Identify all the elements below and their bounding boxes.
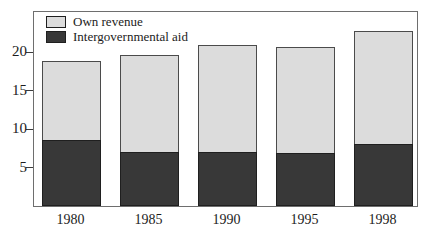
bar-segment-own-revenue	[42, 61, 101, 141]
y-tick-mark	[26, 90, 33, 91]
y-tick-label: 20	[0, 42, 27, 60]
x-axis-label: 1980	[41, 211, 100, 228]
bar-segment-own-revenue	[198, 45, 257, 153]
x-axis-label: 1998	[353, 211, 412, 228]
y-tick-label: 5	[0, 158, 27, 176]
bar-segment-intergovernmental-aid	[42, 140, 101, 206]
y-tick-label: 10	[0, 119, 27, 137]
y-tick-mark	[26, 167, 33, 168]
bar-group	[42, 12, 101, 206]
bar-segment-intergovernmental-aid	[354, 144, 413, 206]
y-tick-mark	[26, 129, 33, 130]
bar-segment-own-revenue	[354, 31, 413, 145]
bar-group	[276, 12, 335, 206]
x-axis-label: 1985	[119, 211, 178, 228]
x-axis-label: 1990	[197, 211, 256, 228]
bar-segment-own-revenue	[120, 55, 179, 153]
bar-segment-own-revenue	[276, 47, 335, 153]
bar-group	[354, 12, 413, 206]
y-tick-label: 15	[0, 81, 27, 99]
y-tick-mark	[26, 52, 33, 53]
bar-segment-intergovernmental-aid	[120, 152, 179, 206]
x-axis-label: 1995	[275, 211, 334, 228]
bar-segment-intergovernmental-aid	[276, 153, 335, 206]
chart-figure: Own revenue Intergovernmental aid 510152…	[0, 0, 428, 238]
bar-segment-intergovernmental-aid	[198, 152, 257, 206]
plot-area: Own revenue Intergovernmental aid	[33, 11, 418, 207]
bar-group	[120, 12, 179, 206]
bar-group	[198, 12, 257, 206]
